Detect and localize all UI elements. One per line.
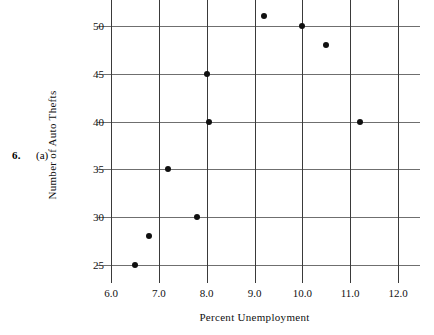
y-axis-tick-label: 45: [93, 68, 104, 80]
gridline-vertical: [111, 0, 112, 283]
plot-area: 2530354045506.07.08.09.010.011.012.0: [111, 26, 398, 265]
gridline-vertical: [398, 0, 399, 283]
gridline-horizontal: [97, 74, 420, 75]
data-point: [204, 71, 210, 77]
x-axis-tick-label: 8.0: [200, 287, 214, 299]
gridline-vertical: [159, 0, 160, 283]
y-axis-tick-label: 40: [93, 116, 104, 128]
gridline-vertical: [302, 0, 303, 283]
x-axis-tick-label: 6.0: [104, 287, 118, 299]
data-point: [357, 119, 363, 125]
gridline-horizontal: [97, 169, 420, 170]
gridline-vertical: [350, 0, 351, 283]
data-point: [132, 262, 138, 268]
data-point: [299, 23, 305, 29]
y-axis-title: Number of Auto Thefts: [46, 90, 58, 199]
x-axis-tick-label: 9.0: [248, 287, 262, 299]
data-point: [323, 42, 329, 48]
scatter-plot: 2530354045506.07.08.09.010.011.012.0 Per…: [0, 0, 434, 335]
data-point: [194, 214, 200, 220]
gridline-horizontal: [97, 122, 420, 123]
gridline-vertical: [255, 0, 256, 283]
x-axis-tick-label: 12.0: [388, 287, 407, 299]
data-point: [261, 13, 267, 19]
y-axis-tick-label: 35: [93, 163, 104, 175]
gridline-vertical: [207, 0, 208, 283]
x-axis-tick-label: 7.0: [152, 287, 166, 299]
data-point: [165, 166, 171, 172]
y-axis-tick-label: 30: [93, 211, 104, 223]
y-axis-tick-label: 25: [93, 259, 104, 271]
y-axis-tick-label: 50: [93, 20, 104, 32]
gridline-horizontal: [97, 265, 420, 266]
data-point: [146, 233, 152, 239]
gridline-horizontal: [97, 217, 420, 218]
data-point: [206, 119, 212, 125]
x-axis-title: Percent Unemployment: [111, 311, 398, 323]
gridline-horizontal: [97, 26, 420, 27]
x-axis-tick-label: 10.0: [293, 287, 312, 299]
x-axis-tick-label: 11.0: [341, 287, 360, 299]
